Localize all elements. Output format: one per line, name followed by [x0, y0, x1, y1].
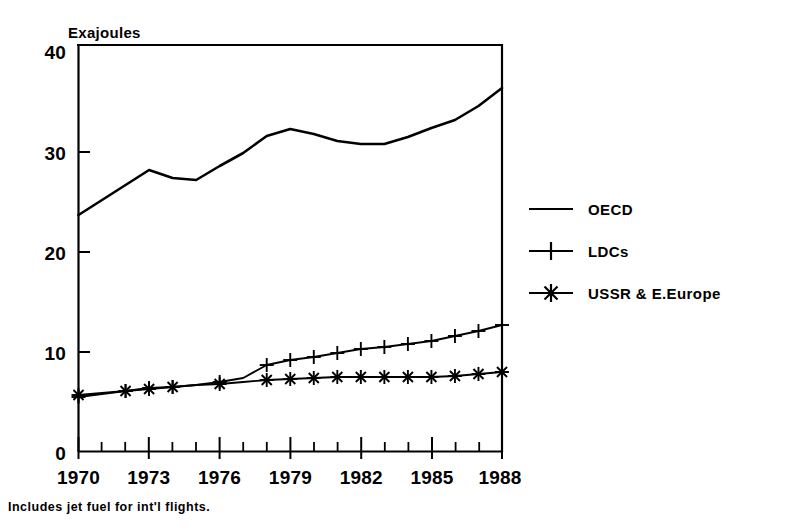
x-tick-label-1988: 1988: [478, 467, 521, 488]
y-axis-title: Exajoules: [68, 24, 141, 41]
data-point-marker: [283, 353, 297, 367]
data-point-marker: [495, 318, 509, 332]
data-point-marker: [401, 370, 415, 384]
data-point-marker: [260, 373, 274, 387]
x-tick-label-1970: 1970: [57, 467, 100, 488]
data-point-marker: [330, 346, 344, 360]
y-tick-label-0: 0: [55, 443, 66, 464]
data-point-marker: [424, 370, 438, 384]
data-point-marker: [401, 337, 415, 351]
legend-label-ldcs: LDCs: [588, 243, 629, 260]
data-point-marker: [283, 372, 297, 386]
data-point-marker: [471, 367, 485, 381]
data-point-marker: [377, 340, 391, 354]
data-point-marker: [307, 371, 321, 385]
legend-item-ussr-eeurope: USSR & E.Europe: [528, 272, 783, 314]
legend-label-oecd: OECD: [588, 201, 633, 218]
series-ussr-e-europe: [72, 365, 510, 402]
footnote-text: Includes jet fuel for int'l flights.: [8, 500, 210, 514]
data-point-marker: [424, 334, 438, 348]
data-point-marker: [377, 370, 391, 384]
chart-legend: OECD LDCs USSR & E.Europe: [528, 188, 783, 314]
x-tick-label-1982: 1982: [340, 467, 383, 488]
data-point-marker: [330, 370, 344, 384]
data-point-marker: [495, 365, 509, 379]
series-line: [79, 88, 503, 215]
series-ldcs: [72, 318, 510, 404]
data-point-marker: [354, 370, 368, 384]
series-oecd: [79, 88, 503, 215]
legend-plus-marker-icon: [528, 241, 574, 261]
data-point-marker: [448, 329, 462, 343]
data-series-layer: [72, 88, 510, 404]
legend-item-oecd: OECD: [528, 188, 783, 230]
y-tick-label-40: 40: [44, 42, 66, 63]
y-tick-label-10: 10: [44, 343, 66, 364]
x-tick-label-1985: 1985: [410, 467, 453, 488]
data-point-marker: [72, 388, 86, 402]
legend-line-sample-icon: [528, 199, 574, 219]
data-point-marker: [119, 384, 133, 398]
data-point-marker: [166, 380, 180, 394]
y-tick-label-30: 30: [44, 143, 66, 164]
data-point-marker: [448, 369, 462, 383]
legend-item-ldcs: LDCs: [528, 230, 783, 272]
footnote: Includes jet fuel for int'l flights.: [8, 497, 210, 515]
data-point-marker: [471, 324, 485, 338]
data-point-marker: [307, 350, 321, 364]
data-point-marker: [213, 377, 227, 391]
x-axis-major-ticks: [79, 437, 503, 459]
chart-page: Exajoules 40 30 20 10 0 1970 1973 1976 1…: [0, 0, 789, 531]
y-axis-ticks: [78, 152, 90, 352]
data-point-marker: [142, 382, 156, 396]
legend-label-ussr-eeurope: USSR & E.Europe: [588, 285, 721, 302]
data-point-marker: [354, 342, 368, 356]
plot-frame: [77, 44, 503, 452]
x-tick-label-1976: 1976: [198, 467, 241, 488]
x-tick-label-1973: 1973: [127, 467, 170, 488]
legend-asterisk-marker-icon: [528, 283, 574, 303]
x-tick-label-1979: 1979: [269, 467, 312, 488]
y-tick-label-20: 20: [44, 243, 66, 264]
data-point-marker: [260, 358, 274, 372]
